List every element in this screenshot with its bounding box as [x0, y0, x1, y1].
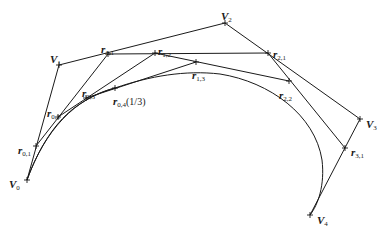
label-r13: r1,3 [192, 66, 205, 83]
label-r03: r0,3 [82, 84, 95, 101]
label-v4: V4 [317, 211, 328, 228]
label-r02: r0,2 [47, 104, 60, 121]
label-r04: r0,4(1/3) [113, 92, 145, 109]
label-r22: r2,2 [279, 86, 292, 103]
label-r01: r0,1 [18, 141, 31, 158]
point-markers [24, 20, 363, 218]
label-r12: r1,2 [158, 42, 171, 59]
label-r31: r3,1 [351, 143, 364, 160]
segment-r01-r11 [36, 54, 108, 146]
label-v2: V2 [221, 7, 232, 24]
segment-r12-r22 [155, 53, 289, 81]
label-v0: V0 [9, 175, 20, 192]
segment-r11-r21 [108, 53, 268, 54]
control-polygon [27, 23, 360, 215]
label-r21: r2,1 [273, 45, 286, 62]
label-r11: r1,1 [101, 40, 114, 57]
label-v3: V3 [366, 115, 377, 132]
de-casteljau-diagram: V0 V1 V2 V3 V4 r0,1 r0,2 r0,3 r0,4(1/3) … [0, 0, 388, 228]
label-v1: V1 [50, 50, 61, 67]
